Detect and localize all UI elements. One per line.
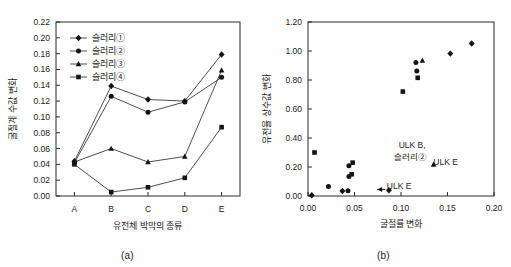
legend-label-4: 슬러리④ (92, 72, 125, 82)
data-point-s4 (72, 162, 77, 167)
figure-container: 0.000.020.040.060.080.100.120.140.160.18… (0, 0, 511, 267)
annotation-1: ULK B, (399, 140, 426, 150)
y-tick-label-a: 0.14 (33, 80, 50, 90)
y-tick-label-a: 0.12 (33, 96, 50, 106)
data-point-s1 (145, 96, 151, 102)
y-tick-label-a: 0.00 (33, 191, 50, 201)
scatter-point (415, 76, 420, 81)
y-tick-label-a: 0.18 (33, 49, 50, 59)
legend-label-3: 슬러리③ (92, 59, 125, 69)
legend-marker-2 (76, 49, 81, 54)
data-point-s2 (219, 75, 224, 80)
annotation-2: 슬러리② (394, 152, 427, 162)
annotation-arrow-head (377, 187, 382, 192)
scatter-point (345, 188, 350, 193)
x-tick-label-a: B (108, 204, 114, 214)
y-axis-title-a: 굴절계 수값 변화 (7, 78, 18, 139)
data-point-s3 (108, 146, 114, 151)
y-tick-label-b: 0.40 (285, 133, 302, 143)
scatter-point (420, 58, 426, 63)
series-line-2 (74, 77, 221, 162)
x-tick-label-b: 0.15 (439, 203, 456, 213)
data-point-s4 (183, 176, 188, 181)
scatter-point (350, 160, 355, 165)
legend-marker-1 (76, 35, 82, 41)
y-tick-label-a: 0.04 (33, 159, 50, 169)
x-tick-label-a: E (219, 204, 225, 214)
y-tick-label-b: 0.80 (285, 75, 302, 85)
x-tick-label-a: C (145, 204, 151, 214)
scatter-point (447, 50, 453, 56)
x-tick-label-b: 0.20 (486, 203, 503, 213)
annotation-4: ULK E (387, 181, 412, 191)
y-tick-label-b: 0.60 (285, 104, 302, 114)
legend-marker-4 (76, 75, 81, 80)
scatter-point (401, 89, 406, 94)
scatter-point (312, 150, 317, 155)
y-tick-label-a: 0.22 (33, 17, 50, 27)
scatter-point (309, 192, 315, 198)
y-tick-label-a: 0.20 (33, 33, 50, 43)
y-tick-label-b: 0.20 (285, 162, 302, 172)
scatter-chart-b: 0.000.200.400.600.801.001.200.000.050.10… (256, 0, 511, 248)
x-axis-title-a: 유전체 박막의 종류 (113, 221, 182, 231)
plot-frame-a (56, 22, 240, 196)
data-point-s1 (108, 83, 114, 89)
y-tick-label-b: 0.00 (285, 191, 302, 201)
scatter-point (339, 188, 345, 194)
legend-label-1: 슬러리① (92, 33, 125, 43)
legend-label-2: 슬러리② (92, 46, 125, 56)
x-tick-label-b: 0.05 (346, 203, 363, 213)
data-point-s4 (219, 125, 224, 130)
scatter-point (349, 172, 354, 177)
scatter-point (414, 69, 419, 74)
data-point-s3 (219, 67, 225, 72)
caption-panel-a: (a) (0, 250, 255, 261)
y-tick-label-a: 0.06 (33, 144, 50, 154)
y-tick-label-b: 1.20 (285, 17, 302, 27)
data-point-s2 (182, 99, 187, 104)
y-tick-label-a: 0.16 (33, 64, 50, 74)
y-tick-label-a: 0.02 (33, 175, 50, 185)
annotation-3: ULK E (433, 157, 458, 167)
y-axis-title-b: 유전율 상수값 변화 (261, 74, 272, 143)
x-tick-label-b: 0.00 (300, 203, 317, 213)
plot-frame-b (308, 22, 494, 196)
caption-panel-b: (b) (256, 250, 511, 261)
line-chart-a: 0.000.020.040.060.080.100.120.140.160.18… (0, 0, 255, 248)
x-tick-label-a: A (72, 204, 78, 214)
x-tick-label-a: D (182, 204, 188, 214)
data-point-s4 (109, 190, 114, 195)
data-point-s2 (146, 110, 151, 115)
data-point-s2 (109, 94, 114, 99)
series-line-1 (74, 54, 221, 161)
x-tick-label-b: 0.10 (393, 203, 410, 213)
y-tick-label-b: 1.00 (285, 46, 302, 56)
data-point-s3 (182, 154, 188, 159)
scatter-point (469, 40, 475, 46)
x-axis-title-b: 굴절률 변화 (380, 218, 423, 229)
chart-panel-a: 0.000.020.040.060.080.100.120.140.160.18… (0, 0, 255, 267)
scatter-point (326, 184, 331, 189)
y-tick-label-a: 0.10 (33, 112, 50, 122)
y-tick-label-a: 0.08 (33, 128, 50, 138)
data-point-s4 (146, 185, 151, 190)
scatter-point (413, 60, 418, 65)
chart-panel-b: 0.000.200.400.600.801.001.200.000.050.10… (256, 0, 511, 267)
